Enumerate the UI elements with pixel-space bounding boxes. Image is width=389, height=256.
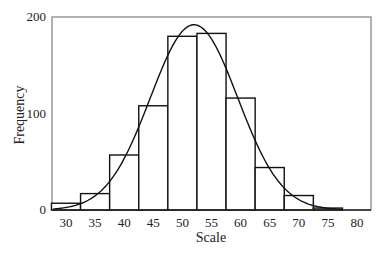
x-tick-label: 65 (263, 215, 276, 230)
x-tick-label: 75 (321, 215, 334, 230)
histogram-bar (255, 168, 284, 210)
histogram-chart: 0100200 3035404550556065707580 Scale Fre… (0, 0, 389, 256)
x-axis-tick-labels: 3035404550556065707580 (60, 215, 364, 230)
histogram-bar (168, 36, 197, 210)
histogram-bar (139, 106, 168, 210)
histogram-bars (51, 33, 342, 210)
y-tick-label: 0 (40, 202, 47, 217)
x-tick-label: 80 (351, 215, 364, 230)
x-tick-label: 70 (292, 215, 305, 230)
y-axis-tick-labels: 0100200 (27, 9, 47, 217)
x-tick-label: 45 (147, 215, 160, 230)
y-tick-label: 200 (27, 9, 47, 24)
y-tick-label: 100 (27, 106, 47, 121)
histogram-bar (110, 155, 139, 210)
x-tick-label: 30 (60, 215, 73, 230)
x-tick-label: 50 (176, 215, 189, 230)
histogram-bar (226, 98, 255, 210)
y-axis-title: Frequency (12, 85, 27, 144)
x-axis-title: Scale (196, 230, 226, 245)
histogram-bar (284, 196, 313, 210)
x-tick-label: 35 (89, 215, 102, 230)
x-tick-label: 55 (205, 215, 218, 230)
x-tick-label: 40 (118, 215, 131, 230)
x-tick-label: 60 (234, 215, 247, 230)
